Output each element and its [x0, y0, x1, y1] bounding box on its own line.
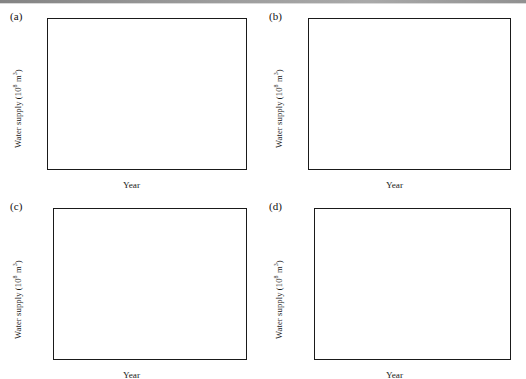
panel-c-legend [66, 213, 71, 217]
panel-a-label: (a) [10, 10, 23, 22]
panel-d: (d) Water supply (108 m3) Year [263, 189, 526, 379]
figure-container: (a) Water supply (108 m3) Year (b) Water… [0, 0, 526, 379]
panel-c: (c) Water supply (108 m3) Year [0, 189, 263, 379]
y-axis-title-text: Water supply (108 m3) [13, 260, 23, 339]
y-axis-title-text: Water supply (108 m3) [274, 260, 284, 339]
panel-c-plot-area [53, 208, 247, 360]
panel-b-label: (b) [269, 10, 282, 22]
panel-d-y-axis-title: Water supply (108 m3) [273, 260, 284, 339]
panel-c-x-axis-title: Year [0, 370, 263, 379]
panel-b-legend [325, 23, 330, 27]
panel-a-plot-area [47, 18, 247, 170]
panel-c-y-axis-title: Water supply (108 m3) [12, 260, 23, 339]
y-axis-title-text: Water supply (108 m3) [274, 69, 284, 148]
panel-d-label: (d) [269, 200, 282, 212]
panel-d-plot-area [314, 208, 511, 360]
panel-d-x-axis-title: Year [263, 370, 526, 379]
y-axis-title-text: Water supply (108 m3) [13, 69, 23, 148]
panel-a-legend [64, 23, 69, 27]
panel-b-y-axis-title: Water supply (108 m3) [273, 69, 284, 148]
panel-a: (a) Water supply (108 m3) Year [0, 0, 263, 189]
panel-d-legend [327, 213, 332, 217]
panel-b: (b) Water supply (108 m3) Year [263, 0, 526, 189]
panel-c-label: (c) [10, 200, 23, 212]
panel-a-y-axis-title: Water supply (108 m3) [12, 69, 23, 148]
panel-b-plot-area [308, 18, 511, 170]
